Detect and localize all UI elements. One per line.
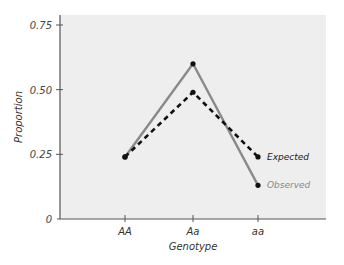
data-point [122, 154, 127, 159]
y-tick-label: 0.75 [30, 20, 52, 31]
y-tick-label: 0.25 [30, 149, 52, 160]
y-tick-label: 0 [46, 214, 52, 225]
data-point [190, 61, 195, 66]
data-point [255, 154, 260, 159]
legend-label-expected: Expected [267, 152, 309, 162]
x-tick-label: Aa [186, 226, 200, 237]
x-axis-title: Genotype [169, 241, 218, 252]
y-ticks: 00.250.500.75 [30, 20, 63, 225]
y-tick-label: 0.50 [30, 85, 52, 96]
x-tick-label: aa [252, 226, 264, 237]
data-point [190, 90, 195, 95]
y-axis-title: Proportion [13, 91, 24, 143]
data-point [255, 183, 260, 188]
x-tick-label: AA [117, 226, 132, 237]
legend-label-observed: Observed [267, 180, 311, 190]
genotype-proportion-chart: 00.250.500.75 AAAaaa Proportion Genotype… [0, 0, 344, 265]
